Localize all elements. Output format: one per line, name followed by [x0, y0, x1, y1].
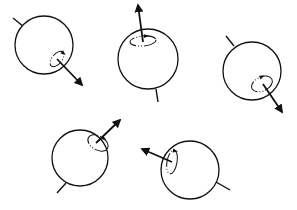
sphere-outline — [223, 42, 281, 100]
axis-tail — [156, 89, 158, 102]
spinning-sphere — [52, 120, 120, 193]
axis-tail — [226, 36, 234, 46]
spin-axis-arrow-icon — [57, 59, 82, 85]
spin-diagram — [0, 0, 297, 210]
spinning-sphere — [13, 16, 82, 85]
axis-tail — [216, 182, 230, 190]
spin-axis-arrow-icon — [96, 120, 120, 143]
sphere-outline — [161, 141, 219, 199]
spinning-sphere — [142, 141, 230, 199]
spinning-sphere — [223, 36, 282, 112]
spinning-sphere — [118, 5, 178, 102]
diagram-svg — [0, 0, 297, 210]
sphere-outline — [118, 29, 178, 89]
axis-tail — [57, 183, 66, 193]
